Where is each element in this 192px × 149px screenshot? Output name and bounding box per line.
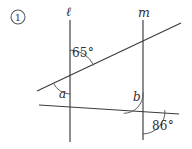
line-m-label: m [138, 7, 150, 20]
angle-b-label: b [133, 91, 141, 103]
angle-65-label: 65° [72, 47, 94, 59]
transversal-lower-stroke [39, 105, 179, 114]
problem-number-badge: 1 [11, 10, 25, 24]
angle-a-label: a [59, 88, 66, 100]
angle-86-label: 86° [152, 120, 174, 132]
transversal-upper-stroke [37, 23, 181, 91]
line-l-label: ℓ [66, 6, 71, 19]
problem-number-label: 1 [11, 10, 25, 24]
geometry-figure: 1 ℓ m 65° a b 86° [0, 0, 192, 149]
